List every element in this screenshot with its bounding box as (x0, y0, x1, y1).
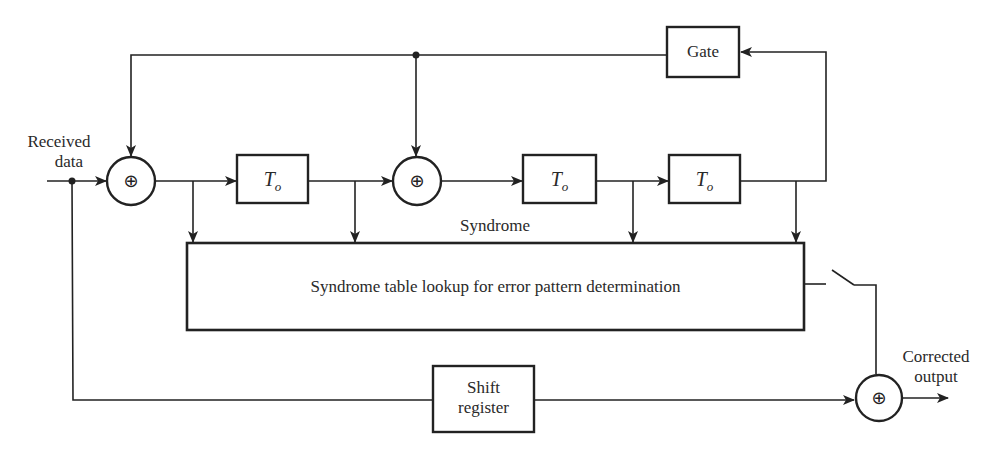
gate-label: Gate (667, 42, 739, 62)
junction-dot-input (69, 178, 76, 185)
delay-symbol: T (264, 168, 275, 190)
delay-symbol: T (696, 168, 707, 190)
wire-feedback-to-gate (740, 52, 826, 181)
input-label-line2: data (20, 152, 98, 172)
lookup-box-label: Syndrome table lookup for error pattern … (187, 277, 804, 297)
input-label-line1: Received (20, 132, 98, 152)
shift-register-label-line2: register (433, 398, 534, 418)
delay-subscript: o (562, 179, 569, 194)
adder-2-symbol: ⊕ (407, 171, 427, 191)
output-label-line2: output (896, 367, 976, 387)
adder-3-symbol: ⊕ (869, 388, 889, 408)
delay-label-3: To (669, 169, 740, 197)
output-label: Corrected output (896, 347, 976, 387)
junction-dot-gate (413, 52, 420, 59)
shift-register-label-line1: Shift (433, 378, 534, 398)
switch (832, 270, 854, 285)
delay-subscript: o (707, 179, 714, 194)
delay-label-1: To (237, 169, 308, 197)
wire-switch-adder3 (854, 285, 876, 374)
input-label: Received data (20, 132, 98, 172)
adder-1-symbol: ⊕ (121, 171, 141, 191)
delay-subscript: o (275, 179, 282, 194)
shift-register-label: Shift register (433, 378, 534, 418)
syndrome-label: Syndrome (440, 216, 550, 236)
wire-gate-to-adder1 (131, 55, 667, 156)
output-label-line1: Corrected (896, 347, 976, 367)
delay-label-2: To (523, 169, 596, 197)
delay-symbol: T (551, 168, 562, 190)
